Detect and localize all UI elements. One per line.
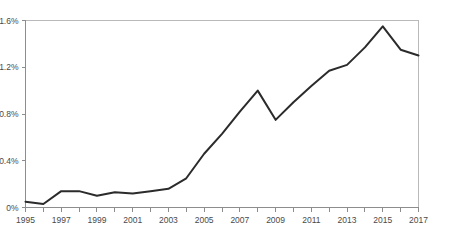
y-tick-label: 0.4%: [0, 156, 19, 166]
data-series-line: [26, 26, 419, 204]
line-chart: 0%0.4%0.8%1.2%1.6% 199519971999200120032…: [0, 0, 452, 239]
y-tick-label: 1.2%: [0, 62, 19, 72]
chart-container: 0%0.4%0.8%1.2%1.6% 199519971999200120032…: [0, 0, 452, 239]
x-tick-label: 2003: [159, 215, 178, 225]
y-axis-ticks: [22, 21, 26, 208]
x-tick-label: 2013: [338, 215, 357, 225]
x-tick-label: 2015: [373, 215, 392, 225]
x-tick-label: 1999: [87, 215, 106, 225]
y-tick-label: 1.6%: [0, 16, 19, 26]
x-tick-label: 2017: [409, 215, 428, 225]
x-axis-ticks: [26, 208, 419, 212]
x-tick-label: 2001: [123, 215, 142, 225]
x-axis-tick-labels: 1995199719992001200320052007200920112013…: [16, 215, 428, 225]
y-tick-label: 0.8%: [0, 109, 19, 119]
x-tick-label: 2005: [195, 215, 214, 225]
y-axis-tick-labels: 0%0.4%0.8%1.2%1.6%: [0, 16, 19, 213]
x-tick-label: 2011: [302, 215, 321, 225]
x-tick-label: 2009: [266, 215, 285, 225]
x-tick-label: 1997: [52, 215, 71, 225]
plot-area-border: [26, 21, 419, 208]
x-tick-label: 2007: [230, 215, 249, 225]
y-tick-label: 0%: [6, 203, 19, 213]
x-tick-label: 1995: [16, 215, 35, 225]
